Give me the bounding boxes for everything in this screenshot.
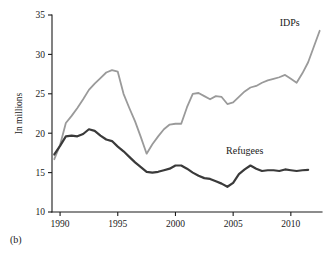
y-axis-tick-labels: 101520253035 — [36, 10, 46, 217]
x-tick-label: 2000 — [166, 219, 185, 229]
data-series-group — [54, 31, 319, 187]
y-tick-label: 30 — [36, 50, 46, 60]
series-line-idps — [54, 31, 319, 159]
y-tick-label: 35 — [36, 10, 46, 20]
x-axis-ticks — [60, 212, 291, 216]
series-label-idps: IDPs — [280, 17, 300, 28]
figure-panel-b: 101520253035 In millions 199019952000200… — [0, 0, 336, 256]
series-inline-labels: IDPsRefugees — [226, 17, 300, 156]
y-axis-title: In millions — [14, 92, 24, 134]
x-axis-tick-labels: 19901995200020052010 — [51, 219, 301, 229]
series-line-refugees — [54, 129, 308, 187]
x-tick-label: 2010 — [281, 219, 300, 229]
x-tick-label: 2005 — [224, 219, 243, 229]
y-axis-group: 101520253035 In millions — [14, 10, 52, 217]
y-axis-ticks — [48, 15, 52, 212]
series-label-refugees: Refugees — [226, 145, 263, 156]
y-tick-label: 10 — [36, 207, 46, 217]
line-chart: 101520253035 In millions 199019952000200… — [0, 0, 336, 256]
y-tick-label: 20 — [36, 129, 46, 139]
y-tick-label: 15 — [36, 168, 46, 178]
panel-label: (b) — [10, 234, 22, 246]
x-axis-group: 19901995200020052010 — [51, 212, 322, 229]
x-tick-label: 1995 — [108, 219, 127, 229]
y-tick-label: 25 — [36, 89, 46, 99]
x-tick-label: 1990 — [51, 219, 70, 229]
